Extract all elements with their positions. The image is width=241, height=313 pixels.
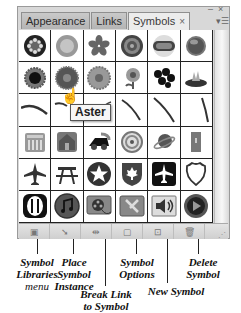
door-icon (184, 130, 208, 154)
flower-icon (87, 34, 111, 58)
symbol-planet[interactable] (148, 127, 180, 159)
place-instance-icon: ➘ (61, 227, 69, 237)
symbol-blue-flower[interactable] (84, 30, 116, 62)
delete-symbol-button[interactable]: 🗑 (174, 224, 205, 239)
callout-text: Break Link (72, 288, 140, 300)
bowl-icon (55, 34, 79, 58)
symbol-music-note[interactable] (51, 191, 83, 223)
symbol-stroke-6[interactable] (181, 94, 213, 126)
break-link-icon: ⇹ (92, 227, 100, 237)
symbol-stroke-4[interactable] (116, 94, 148, 126)
symbol-berry-cluster[interactable] (148, 62, 180, 94)
callout-line (136, 239, 137, 254)
callout-text: Symbol (110, 256, 164, 268)
minimize-button[interactable]: – (208, 5, 213, 14)
play-icon (183, 193, 209, 219)
symbol-dark-rosette[interactable] (19, 30, 51, 62)
stem-flower-icon (120, 66, 144, 90)
tab-symbols[interactable]: Symbols× (128, 12, 190, 30)
symbol-restaurant[interactable] (19, 191, 51, 223)
place-symbol-instance-button[interactable]: ➘ (50, 224, 81, 239)
symbol-pill-badge[interactable] (148, 30, 180, 62)
symbol-house[interactable] (51, 127, 83, 159)
target-icon (120, 34, 144, 58)
symbol-blue-sphere[interactable] (181, 30, 213, 62)
music-note-icon (54, 193, 80, 219)
symbol-daisy[interactable] (84, 62, 116, 94)
new-symbol-icon: ⊡ (154, 227, 162, 237)
symbol-film-reel[interactable] (84, 191, 116, 223)
star-circle-icon (86, 161, 112, 187)
symbol-star-circle[interactable] (84, 159, 116, 191)
lily-icon (184, 66, 208, 90)
libraries-icon: ▣ (30, 227, 39, 237)
symbol-orange-bowl[interactable] (51, 30, 83, 62)
symbol-highway-shield[interactable] (181, 159, 213, 191)
symbol-maple-leaf-shield[interactable] (116, 159, 148, 191)
symbol-tooltip: Aster (70, 104, 111, 121)
symbol-door[interactable] (181, 127, 213, 159)
symbol-water-lily[interactable] (181, 62, 213, 94)
compass-icon (120, 130, 144, 154)
daisy-icon (87, 66, 111, 90)
berry-icon (152, 66, 176, 90)
symbol-speaker[interactable] (148, 191, 180, 223)
film-reel-icon (86, 194, 112, 218)
panel-menu-icon[interactable]: ▾☰ (216, 17, 229, 26)
symbol-target-ring[interactable] (116, 30, 148, 62)
tab-close-icon[interactable]: × (179, 16, 185, 27)
brush-stroke-icon (118, 96, 146, 124)
symbol-black-flower[interactable] (19, 62, 51, 94)
callout-line (198, 239, 199, 254)
planet-icon (152, 130, 176, 154)
maple-leaf-shield-icon (120, 161, 144, 187)
callout-line (105, 239, 106, 286)
vertical-scrollbar[interactable] (214, 30, 229, 223)
airplane-icon (23, 162, 47, 186)
tab-bar: Appearance Links Symbols× (21, 12, 191, 30)
truck-icon (87, 130, 111, 154)
symbol-play-button[interactable] (181, 191, 213, 223)
callout-text: Symbol (180, 268, 226, 280)
tools-icon (119, 194, 145, 218)
sphere-icon (184, 34, 208, 58)
badge-icon (152, 34, 176, 58)
symbol-truck[interactable] (84, 127, 116, 159)
callout-new-symbol: New Symbol (140, 285, 212, 297)
resize-grip-icon[interactable]: ⋰ (205, 224, 228, 239)
picnic-table-icon (55, 162, 79, 186)
symbol-stem-flower[interactable] (116, 62, 148, 94)
options-icon: ▢ (123, 227, 132, 237)
house-icon (55, 130, 79, 154)
tab-label: Appearance (26, 15, 85, 27)
callout-text: New Symbol (140, 285, 212, 297)
tab-appearance[interactable]: Appearance (21, 12, 90, 29)
building-icon (23, 130, 47, 154)
symbol-compass[interactable] (116, 127, 148, 159)
callout-text: Options (110, 268, 164, 280)
new-symbol-button[interactable]: ⊡ (143, 224, 174, 239)
callout-place-symbol-instance: Place Symbol Instance (48, 256, 100, 292)
tab-links[interactable]: Links (91, 12, 127, 29)
symbol-options-button[interactable]: ▢ (112, 224, 143, 239)
hand-cursor-icon: ☝ (61, 87, 80, 105)
callout-delete-symbol: Delete Symbol (180, 256, 226, 280)
callout-text: Delete (180, 256, 226, 268)
symbol-stroke-1[interactable] (19, 94, 51, 126)
speaker-icon (151, 194, 177, 218)
restaurant-icon (22, 193, 48, 219)
tab-label: Links (96, 15, 122, 27)
symbol-airplane-square[interactable] (148, 159, 180, 191)
break-link-button[interactable]: ⇹ (81, 224, 112, 239)
symbol-libraries-menu-button[interactable]: ▣ (19, 224, 50, 239)
symbol-stroke-5[interactable] (148, 94, 180, 126)
highway-shield-icon (184, 161, 208, 187)
symbol-picnic-table[interactable] (51, 159, 83, 191)
symbol-building[interactable] (19, 127, 51, 159)
callout-line (73, 239, 74, 254)
symbol-airplane[interactable] (19, 159, 51, 191)
symbol-tools[interactable] (116, 191, 148, 223)
black-flower-icon (23, 66, 47, 90)
trash-icon: 🗑 (184, 227, 195, 237)
panel-close-button[interactable]: × (218, 5, 223, 14)
